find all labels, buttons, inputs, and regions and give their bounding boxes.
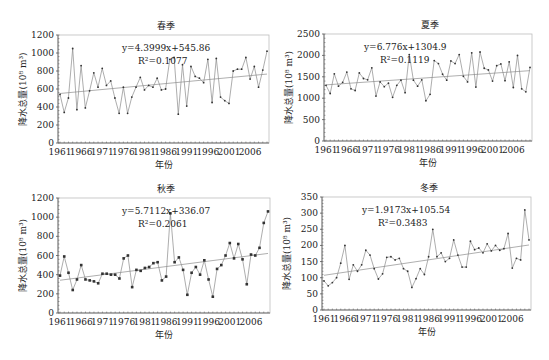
data-point: [165, 88, 167, 90]
data-point: [237, 243, 240, 246]
y-tick-label: 1500: [297, 72, 320, 82]
x-tick-label: 1971: [354, 314, 377, 324]
data-point: [212, 295, 215, 298]
data-point: [148, 85, 150, 87]
data-point: [403, 268, 405, 270]
data-point: [525, 91, 527, 93]
data-point: [215, 58, 217, 60]
data-point: [417, 85, 419, 87]
chart-title: 夏季: [421, 19, 439, 30]
data-point: [177, 113, 179, 115]
x-tick-label: 1986: [419, 145, 442, 155]
data-point: [415, 278, 417, 280]
x-tick-label: 1996: [459, 314, 482, 324]
y-tick-label: 200: [37, 120, 54, 130]
data-point: [524, 209, 526, 211]
data-point: [63, 255, 66, 258]
data-point: [354, 90, 356, 92]
y-tick-label: 300: [301, 208, 318, 218]
data-point: [254, 254, 257, 257]
x-tick-label: 1966: [333, 314, 356, 324]
y-tick-label: 250: [301, 224, 318, 234]
data-point: [478, 247, 480, 249]
data-point: [258, 247, 261, 250]
y-tick-label: 350: [301, 192, 318, 202]
data-point: [220, 96, 222, 98]
data-point: [190, 271, 193, 274]
x-tick-label: 1986: [155, 317, 178, 327]
data-point: [186, 105, 188, 107]
data-point: [454, 63, 456, 65]
data-point: [131, 286, 134, 289]
data-point: [161, 279, 164, 282]
data-point: [199, 77, 201, 79]
data-point: [490, 250, 492, 252]
data-point: [228, 103, 230, 105]
data-point: [118, 277, 121, 280]
data-point: [388, 82, 390, 84]
data-point: [433, 60, 435, 62]
y-tick-label: 500: [303, 115, 320, 125]
x-tick-label: 1996: [460, 145, 483, 155]
data-point: [508, 61, 510, 63]
x-tick-label: 2001: [481, 145, 504, 155]
data-point: [394, 259, 396, 261]
trend-equation: y=5.7112x+336.07: [121, 206, 210, 216]
data-point: [114, 273, 117, 276]
data-point: [194, 76, 196, 78]
data-point: [76, 109, 78, 111]
y-tick-label: 1000: [297, 93, 320, 103]
data-point: [336, 277, 338, 279]
data-point: [237, 68, 239, 70]
data-point: [474, 249, 476, 251]
data-point: [511, 267, 513, 269]
data-point: [105, 272, 108, 275]
data-point: [139, 270, 142, 273]
data-point: [446, 79, 448, 81]
data-point: [453, 239, 455, 241]
data-point: [127, 254, 130, 257]
data-point: [428, 256, 430, 258]
data-point: [250, 253, 253, 256]
data-point: [382, 273, 384, 275]
x-tick-label: 2006: [239, 147, 262, 157]
x-tick-label: 1981: [398, 145, 421, 155]
data-point: [101, 272, 104, 275]
data-point: [340, 262, 342, 264]
data-point: [152, 262, 155, 265]
data-point: [486, 243, 488, 245]
data-point: [203, 259, 206, 262]
data-point: [369, 254, 371, 256]
data-point: [499, 249, 501, 251]
data-point: [211, 102, 213, 104]
x-tick-label: 1991: [439, 145, 462, 155]
data-point: [199, 273, 202, 276]
chart-autumn: 秋季02004006008001000120019611966197119761…: [17, 183, 270, 340]
x-tick-label: 1991: [438, 314, 461, 324]
data-point: [203, 82, 205, 84]
x-axis-label: 年份: [418, 326, 436, 337]
data-point: [436, 256, 438, 258]
y-axis-label: 降水总量(10⁸ m³): [17, 219, 28, 292]
data-point: [207, 58, 209, 60]
data-point: [449, 257, 451, 259]
data-point: [110, 273, 113, 276]
trend-equation: y=1.9173x+105.54: [361, 205, 450, 215]
chart-title: 春季: [157, 20, 175, 31]
y-tick-label: 200: [301, 240, 318, 250]
data-point: [63, 112, 65, 114]
data-point: [429, 93, 431, 95]
x-tick-label: 1961: [315, 145, 338, 155]
data-point: [97, 86, 99, 88]
chart-winter: 冬季05010015020025030035019611966197119761…: [281, 182, 531, 337]
x-tick-label: 1976: [112, 147, 135, 157]
data-point: [249, 78, 251, 80]
data-point: [101, 67, 103, 69]
x-tick-label: 1961: [49, 317, 72, 327]
x-tick-label: 1981: [396, 314, 419, 324]
data-point: [190, 66, 192, 68]
data-point: [59, 274, 62, 277]
data-point: [245, 283, 248, 286]
data-point: [216, 268, 219, 271]
data-point: [89, 90, 91, 92]
